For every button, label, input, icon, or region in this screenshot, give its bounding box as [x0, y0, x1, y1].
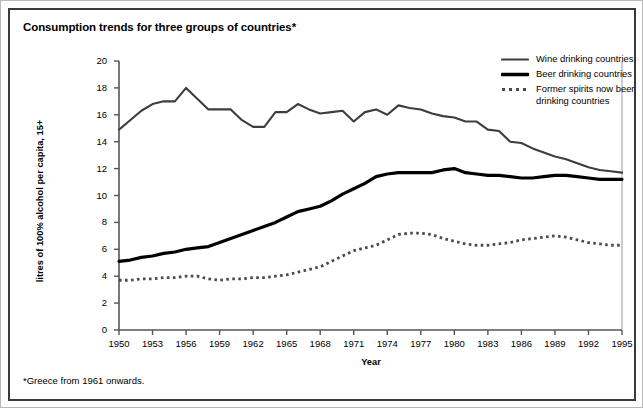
x-tick-label: 1995: [605, 338, 639, 349]
line-swatch-icon: [501, 53, 529, 66]
data-series-group: [119, 88, 622, 280]
x-tick-label: 1983: [471, 338, 505, 349]
figure-panel: Consumption trends for three groups of c…: [0, 0, 643, 408]
y-tick-label: 4: [85, 270, 107, 281]
x-tick-label: 1968: [303, 338, 337, 349]
y-tick-label: 2: [85, 297, 107, 308]
x-tick-label: 1950: [102, 338, 136, 349]
x-tick-label: 1980: [437, 338, 471, 349]
x-tick-label: 1971: [337, 338, 371, 349]
line-swatch-icon: [501, 68, 529, 81]
y-tick-label: 16: [85, 109, 107, 120]
chart-legend: Wine drinking countriesBeer drinking cou…: [501, 53, 641, 108]
legend-item-2[interactable]: Former spirits now beer drinking countri…: [501, 83, 641, 106]
y-tick-label: 10: [85, 190, 107, 201]
x-axis-label: Year: [119, 357, 623, 367]
legend-label: Beer drinking countries: [536, 68, 632, 80]
x-tick-label: 1986: [504, 338, 538, 349]
x-tick-label: 1989: [538, 338, 572, 349]
data-line-beer-drinking-countries: [119, 169, 622, 262]
legend-label: Former spirits now beer drinking countri…: [536, 83, 641, 106]
x-tick-label: 1953: [136, 338, 170, 349]
legend-item-1[interactable]: Beer drinking countries: [501, 68, 641, 81]
x-tick-label: 1962: [236, 338, 270, 349]
x-tick-label: 1959: [203, 338, 237, 349]
y-tick-label: 12: [85, 163, 107, 174]
y-tick-label: 14: [85, 136, 107, 147]
y-tick-label: 0: [85, 324, 107, 335]
y-tick-label: 6: [85, 243, 107, 254]
y-tick-label: 18: [85, 82, 107, 93]
y-tick-label: 8: [85, 216, 107, 227]
x-tick-label: 1965: [270, 338, 304, 349]
legend-label: Wine drinking countries: [536, 53, 633, 65]
data-line-former-spirits-now-beer-drinking-countries: [119, 233, 622, 280]
legend-item-0[interactable]: Wine drinking countries: [501, 53, 641, 66]
x-tick-label: 1977: [404, 338, 438, 349]
y-axis-label: litres of 100% alcohol per capita, 15+: [35, 116, 45, 286]
dotted-line-swatch-icon: [501, 83, 529, 96]
y-tick-label: 20: [85, 55, 107, 66]
x-tick-label: 1992: [571, 338, 605, 349]
x-tick-label: 1956: [169, 338, 203, 349]
x-tick-label: 1974: [370, 338, 404, 349]
